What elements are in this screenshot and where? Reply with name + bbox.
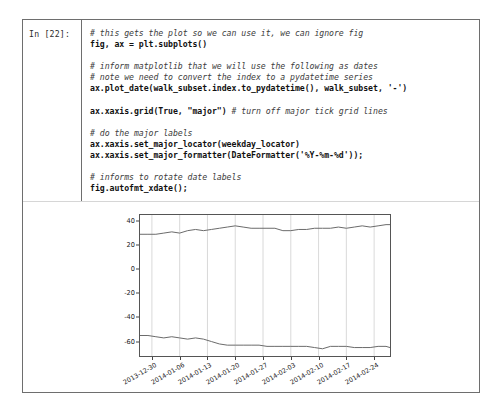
y-tick-label: -40 <box>101 313 135 321</box>
notebook-cell: In [22]: # this gets the plot so we can … <box>22 19 480 393</box>
code-statement: ax.xaxis.grid(True, "major") <box>90 106 232 116</box>
code-comment: # do the major labels <box>90 128 192 138</box>
y-tick-label: 20 <box>101 241 135 249</box>
code-line: fig.autofmt_xdate(); <box>90 183 479 194</box>
code-line: # do the major labels <box>90 128 479 139</box>
code-line <box>90 95 479 106</box>
series-line <box>140 225 390 235</box>
code-line: # inform matplotlib that we will use the… <box>90 61 479 72</box>
x-tick-mark <box>263 357 264 360</box>
code-line: ax.xaxis.set_major_locator(weekday_locat… <box>90 139 479 150</box>
x-tick-mark <box>207 357 208 360</box>
code-line: ax.plot_date(walk_subset.index.to_pydate… <box>90 83 479 94</box>
plot-axes <box>139 214 391 357</box>
y-tick-label: -60 <box>101 338 135 346</box>
code-editor-area[interactable]: # this gets the plot so we can use it, w… <box>81 20 479 201</box>
x-tick-mark <box>319 357 320 360</box>
code-comment: # turn off major tick grid lines <box>232 106 388 116</box>
screenshot-page: In [22]: # this gets the plot so we can … <box>0 0 503 408</box>
x-tick-mark <box>180 357 181 360</box>
code-comment: # informs to rotate date labels <box>90 172 241 182</box>
code-line: # note we need to convert the index to a… <box>90 72 479 83</box>
x-tick-mark <box>374 357 375 360</box>
x-tick-mark <box>152 357 153 360</box>
code-line <box>90 161 479 172</box>
code-line <box>90 50 479 61</box>
series-line <box>140 336 390 349</box>
code-line: fig, ax = plt.subplots() <box>90 39 479 50</box>
notebook-input-row: In [22]: # this gets the plot so we can … <box>23 20 479 201</box>
matplotlib-figure: 40200-20-40-60 2013-12-302014-01-062014-… <box>101 208 421 393</box>
code-comment: # inform matplotlib that we will use the… <box>90 61 378 71</box>
x-tick-mark <box>235 357 236 360</box>
code-statement: fig.autofmt_xdate(); <box>90 183 188 193</box>
code-line: # informs to rotate date labels <box>90 172 479 183</box>
x-tick-mark <box>291 357 292 360</box>
code-statement: ax.xaxis.set_major_locator(weekday_locat… <box>90 139 300 149</box>
code-line <box>90 117 479 128</box>
code-line: # this gets the plot so we can use it, w… <box>90 28 479 39</box>
x-tick-mark <box>346 357 347 360</box>
code-statement: ax.xaxis.set_major_formatter(DateFormatt… <box>90 150 363 160</box>
cell-prompt-label: In [22]: <box>23 20 81 39</box>
code-comment: # this gets the plot so we can use it, w… <box>90 28 363 38</box>
code-statement: ax.plot_date(walk_subset.index.to_pydate… <box>90 83 407 93</box>
code-line: ax.xaxis.grid(True, "major") # turn off … <box>90 106 479 117</box>
code-line: ax.xaxis.set_major_formatter(DateFormatt… <box>90 150 479 161</box>
y-tick-label: 40 <box>101 217 135 225</box>
plot-canvas <box>140 215 390 356</box>
code-statement: fig, ax = plt.subplots() <box>90 39 207 49</box>
cell-output-area: 40200-20-40-60 2013-12-302014-01-062014-… <box>23 201 479 392</box>
y-tick-label: 0 <box>101 265 135 273</box>
y-tick-label: -20 <box>101 289 135 297</box>
code-comment: # note we need to convert the index to a… <box>90 72 373 82</box>
